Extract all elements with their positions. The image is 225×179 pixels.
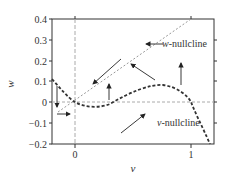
y-tick-label: 0.4 xyxy=(35,14,48,25)
y-tick-label: 0 xyxy=(42,97,47,108)
x-tick-label: 0 xyxy=(73,149,78,160)
y-tick-label: 0.2 xyxy=(35,56,48,67)
y-tick-label: 0.1 xyxy=(35,76,48,87)
y-tick-label: −0.1 xyxy=(29,118,47,129)
x-tick-label: 1 xyxy=(189,149,194,160)
w-nullcline-label: w-nullcline xyxy=(162,38,208,49)
phase-plane-chart: 0.4 0.3 0.2 0.1 0 −0.1 −0.2 0 1 v w w-nu… xyxy=(0,0,225,179)
y-ticks xyxy=(49,16,217,148)
y-tick-label: −0.2 xyxy=(29,139,47,150)
v-nullcline-curve xyxy=(52,79,210,144)
x-axis-label: v xyxy=(131,162,136,174)
w-nullcline-line xyxy=(58,19,191,112)
y-axis-label: w xyxy=(4,80,16,88)
y-tick-label: 0.3 xyxy=(35,35,48,46)
v-nullcline-label: v-nullcline xyxy=(157,117,200,128)
